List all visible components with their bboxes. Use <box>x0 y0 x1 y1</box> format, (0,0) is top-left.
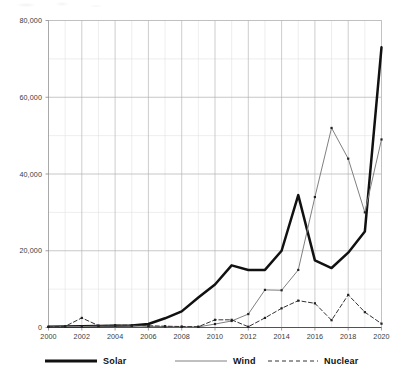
data-point-marker <box>347 158 349 160</box>
legend-label-solar: Solar <box>103 356 127 366</box>
x-axis-tick-label: 2010 <box>207 332 223 341</box>
data-point-marker <box>131 324 133 326</box>
data-point-marker <box>264 289 266 291</box>
data-point-marker <box>380 323 382 325</box>
data-point-marker <box>247 313 249 315</box>
data-point-marker <box>114 324 116 326</box>
data-point-marker <box>147 325 149 327</box>
x-axis-tick-label: 2016 <box>307 332 323 341</box>
chart-canvas: 020,00040,00060,00080,000 20002002200420… <box>0 0 403 382</box>
legend-item-solar: Solar <box>45 356 127 366</box>
y-axis-tick-label: 40,000 <box>19 170 42 179</box>
data-point-marker <box>314 196 316 198</box>
legend-item-wind: Wind <box>175 356 256 366</box>
data-point-marker <box>214 319 216 321</box>
line-chart: 020,00040,00060,00080,000 20002002200420… <box>0 0 403 382</box>
data-point-marker <box>330 127 332 129</box>
data-point-marker <box>281 289 283 291</box>
legend-label-nuclear: Nuclear <box>324 356 359 366</box>
data-point-marker <box>81 325 83 327</box>
x-axis-tick-label: 2008 <box>174 332 190 341</box>
data-point-marker <box>164 325 166 327</box>
x-axis-tick-labels: 2000200220042006200820102012201420162018… <box>40 328 389 341</box>
data-point-marker <box>297 300 299 302</box>
x-axis-tick-label: 2002 <box>74 332 90 341</box>
x-axis-tick-label: 2006 <box>140 332 156 341</box>
x-axis-tick-label: 2012 <box>240 332 256 341</box>
data-point-marker <box>264 317 266 319</box>
data-point-marker <box>247 326 249 328</box>
data-point-marker <box>297 269 299 271</box>
data-point-marker <box>314 302 316 304</box>
chart-legend: SolarWindNuclear <box>45 356 359 366</box>
data-point-marker <box>330 319 332 321</box>
y-axis-tick-label: 80,000 <box>19 16 42 25</box>
legend-item-nuclear: Nuclear <box>268 356 359 366</box>
data-point-marker <box>81 317 83 319</box>
data-point-marker <box>181 325 183 327</box>
data-point-marker <box>47 326 49 328</box>
data-point-marker <box>231 319 233 321</box>
data-point-marker <box>281 307 283 309</box>
data-point-marker <box>214 323 216 325</box>
x-axis-tick-label: 2018 <box>340 332 356 341</box>
y-axis-tick-labels: 020,00040,00060,00080,000 <box>19 16 48 332</box>
x-axis-tick-label: 2014 <box>273 332 289 341</box>
data-point-marker <box>364 311 366 313</box>
data-point-marker <box>364 211 366 213</box>
data-point-marker <box>97 324 99 326</box>
data-point-marker <box>197 326 199 328</box>
data-point-marker <box>64 325 66 327</box>
data-point-marker <box>380 138 382 140</box>
legend-label-wind: Wind <box>233 356 256 366</box>
x-axis-tick-label: 2020 <box>373 332 389 341</box>
y-axis-tick-label: 20,000 <box>19 246 42 255</box>
y-axis-tick-label: 60,000 <box>19 93 42 102</box>
x-axis-tick-label: 2000 <box>40 332 56 341</box>
data-point-marker <box>347 294 349 296</box>
x-axis-tick-label: 2004 <box>107 332 123 341</box>
